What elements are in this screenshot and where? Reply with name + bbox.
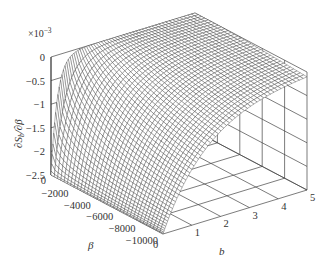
surface-plot: 0−0.5−1−1.5−2−2.50−2000−4000−6000−8000−1… [0, 0, 325, 264]
b-tick-label: 4 [281, 201, 287, 212]
b-tick-label: 1 [195, 227, 200, 238]
z-tick-label: −0.5 [26, 76, 45, 87]
b-tick-label: 0 [153, 239, 158, 250]
y-axis-label: β [87, 239, 94, 251]
z-tick-label: 0 [40, 52, 45, 63]
x-axis-label: b [219, 245, 225, 257]
beta-tick-label: −8000 [109, 223, 136, 234]
b-tick-label: 5 [310, 192, 315, 203]
z-axis-label: ∂Sb/∂β [12, 119, 26, 148]
b-tick-label: 2 [224, 218, 229, 229]
beta-tick-label: −6000 [86, 211, 113, 222]
z-tick-label: −1.5 [26, 123, 45, 134]
z-tick-label: −1 [34, 99, 45, 110]
z-tick-label: −2 [34, 146, 45, 157]
z-multiplier: ×10−3 [28, 26, 52, 39]
floor-gridline-beta [163, 190, 307, 234]
beta-tick-label: −2000 [41, 188, 68, 199]
b-tick-label: 3 [252, 210, 257, 221]
beta-tick-label: 0 [41, 175, 46, 186]
beta-tick-label: −4000 [64, 200, 91, 211]
